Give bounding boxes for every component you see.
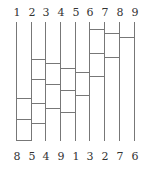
rung [89, 53, 105, 54]
bottom-label: 7 [114, 151, 126, 163]
bottom-label: 3 [84, 151, 96, 163]
rung [89, 76, 105, 77]
bottom-label: 2 [99, 151, 111, 163]
vertical-line [104, 22, 105, 141]
rung [31, 103, 46, 104]
rung [119, 37, 135, 38]
top-label: 7 [99, 7, 111, 19]
rung [60, 68, 76, 69]
top-label: 8 [114, 7, 126, 19]
bottom-label: 6 [129, 151, 141, 163]
rung [75, 95, 90, 96]
top-label: 2 [26, 7, 38, 19]
rung [45, 84, 61, 85]
bottom-label: 5 [26, 151, 38, 163]
bottom-label: 1 [70, 151, 82, 163]
vertical-line [75, 22, 76, 141]
top-label: 1 [11, 7, 23, 19]
top-label: 4 [55, 7, 67, 19]
rung [16, 140, 32, 141]
bottom-label: 9 [55, 151, 67, 163]
vertical-line [16, 22, 17, 141]
rung [60, 112, 76, 113]
rung [31, 59, 46, 60]
rung [45, 108, 61, 109]
rung [45, 63, 61, 64]
rung [89, 29, 105, 30]
top-label: 9 [129, 7, 141, 19]
rung [60, 90, 76, 91]
rung [16, 119, 32, 120]
bottom-label: 8 [11, 151, 23, 163]
rung [31, 123, 46, 124]
vertical-line [60, 22, 61, 141]
top-label: 6 [84, 7, 96, 19]
rung [31, 79, 46, 80]
top-label: 3 [40, 7, 52, 19]
vertical-line [134, 22, 135, 141]
rung [104, 33, 120, 34]
rung [75, 72, 90, 73]
bottom-label: 4 [40, 151, 52, 163]
top-label: 5 [70, 7, 82, 19]
vertical-line [119, 22, 120, 141]
rung [104, 57, 120, 58]
vertical-line [89, 22, 90, 141]
rung [16, 98, 32, 99]
